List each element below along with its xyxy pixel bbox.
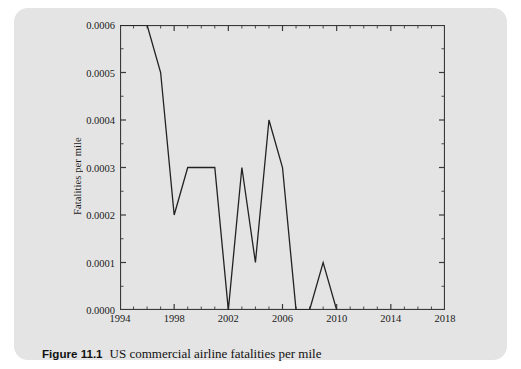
- y-axis-tick-label: 0.0001: [86, 257, 115, 268]
- x-axis-tick-label: 2018: [435, 313, 456, 324]
- x-axis-tick-label: 2014: [380, 313, 401, 324]
- x-axis-tick-label: 2010: [326, 313, 347, 324]
- x-axis-tick-label: 2002: [218, 313, 239, 324]
- y-axis-tick-label: 0.0003: [86, 162, 115, 173]
- y-axis-tick-label: 0.0002: [86, 210, 115, 221]
- figure-card: Fatalities per mile 0.00000.00010.00020.…: [14, 8, 507, 360]
- y-axis-tick-label: 0.0006: [86, 20, 115, 31]
- chart-plot-area: [120, 25, 445, 310]
- figure-caption-text: US commercial airline fatalities per mil…: [110, 346, 322, 361]
- x-axis-tick-label: 1994: [110, 313, 131, 324]
- y-axis-tick-label: 0.0004: [86, 115, 115, 126]
- x-axis-tick-label: 1998: [164, 313, 185, 324]
- line-chart-svg: [120, 25, 445, 310]
- figure-caption-label: Figure 11.1: [42, 347, 103, 360]
- x-axis-tick-labels: 1994199820022006201020142018: [120, 313, 445, 329]
- y-axis-tick-labels: 0.00000.00010.00020.00030.00040.00050.00…: [14, 25, 115, 310]
- x-axis-tick-label: 2006: [272, 313, 293, 324]
- figure-caption: Figure 11.1US commercial airline fatalit…: [42, 346, 492, 362]
- y-axis-tick-label: 0.0005: [86, 67, 115, 78]
- data-series-line-0: [120, 25, 337, 310]
